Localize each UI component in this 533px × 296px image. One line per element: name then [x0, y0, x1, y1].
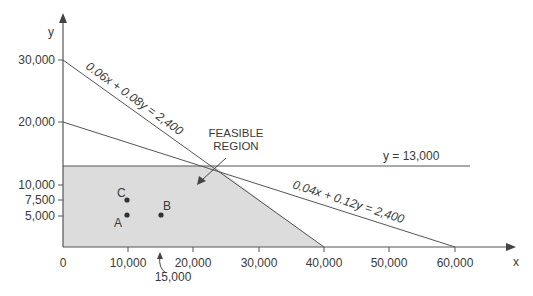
x-axis-label: x [513, 255, 519, 269]
equation-label-3: y = 13,000 [383, 149, 440, 163]
point-a-label: A [114, 216, 122, 230]
x-tick-label: 20,000 [175, 256, 212, 270]
origin-label: 0 [60, 256, 67, 270]
equation-label-2: 0.04x + 0.12y = 2,400 [291, 178, 406, 227]
point-c-label: C [117, 186, 126, 200]
equation-label-1: 0.06x + 0.08y = 2,400 [83, 59, 186, 138]
x-tick-label: 30,000 [241, 256, 278, 270]
x-tick-label: 10,000 [110, 256, 147, 270]
y-tick-label: 10,000 [18, 178, 55, 192]
x-tick-label: 60,000 [437, 256, 474, 270]
x-tick-label: 40,000 [306, 256, 343, 270]
annotation-15000-arrow-icon [157, 252, 163, 259]
annotation-15000-label: 15,000 [155, 270, 192, 284]
region-label-line1: FEASIBLE [209, 127, 264, 139]
point-a [124, 212, 129, 217]
y-tick-label: 20,000 [18, 115, 55, 129]
x-tick-label: 50,000 [371, 256, 408, 270]
y-tick-label: 30,000 [18, 53, 55, 67]
y-ticks [58, 60, 63, 216]
feasible-region [63, 166, 324, 247]
y-axis-arrow-icon [59, 13, 67, 23]
region-label-line2: REGION [213, 140, 258, 152]
y-tick-label: 7,500 [25, 193, 55, 207]
y-tick-label: 5,000 [25, 209, 55, 223]
chart-canvas: 30,000 20,000 10,000 7,500 5,000 0 10,00… [0, 0, 533, 296]
x-axis-arrow-icon [506, 243, 516, 251]
point-b [158, 212, 163, 217]
x-ticks [128, 247, 455, 252]
point-b-label: B [163, 199, 171, 213]
y-axis-label: y [48, 25, 54, 39]
